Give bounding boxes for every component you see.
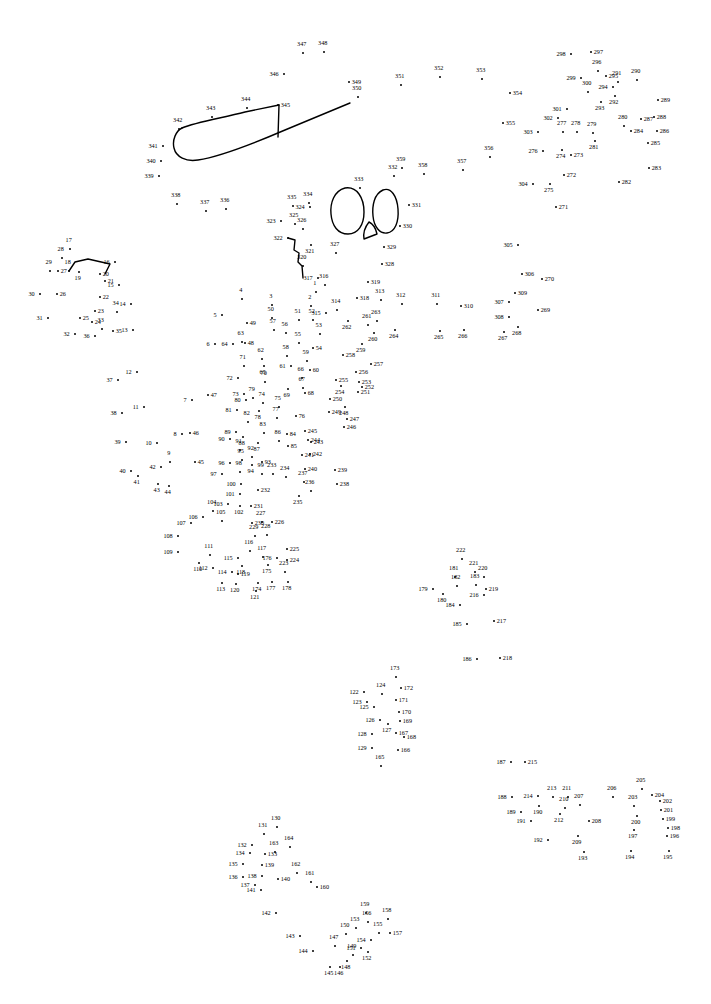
dot-label: 48 <box>248 340 254 346</box>
dot-label: 96 <box>219 460 225 466</box>
dot-label: 132 <box>237 842 246 848</box>
dot-marker <box>298 319 301 322</box>
dot-label: 320 <box>297 254 306 260</box>
dot-label: 109 <box>163 549 172 555</box>
dot-label: 95 <box>238 448 244 454</box>
dot-marker <box>367 281 370 284</box>
dot-marker <box>567 796 570 799</box>
dots-layer: 1234567891011121314151617181920212223242… <box>0 0 711 1004</box>
dot-label: 236 <box>305 479 314 485</box>
dot-label: 120 <box>230 587 239 593</box>
dot-label: 188 <box>497 794 506 800</box>
dot-marker <box>343 426 346 429</box>
dot-label: 38 <box>111 410 117 416</box>
dot-label: 37 <box>107 377 113 383</box>
dot-label: 131 <box>258 822 267 828</box>
dot-marker <box>242 876 245 879</box>
dot-marker <box>579 804 582 807</box>
dot-label: 108 <box>163 533 172 539</box>
dot-label: 67 <box>299 376 305 382</box>
dot-marker <box>130 470 133 473</box>
dot-marker <box>630 130 633 133</box>
dot-label: 249 <box>332 409 341 415</box>
dot-label: 142 <box>261 910 270 916</box>
dot-label: 201 <box>664 807 673 813</box>
dot-label: 343 <box>206 105 215 111</box>
dot-label: 254 <box>335 389 344 395</box>
dot-marker <box>162 145 165 148</box>
dot-label: 333 <box>354 176 363 182</box>
dot-marker <box>99 273 102 276</box>
dot-label: 12 <box>126 369 132 375</box>
dot-label: 239 <box>338 467 347 473</box>
dot-marker <box>130 303 133 306</box>
dot-label: 194 <box>625 854 634 860</box>
dot-marker <box>116 311 119 314</box>
dot-label: 182 <box>451 574 460 580</box>
dot-label: 253 <box>362 379 371 385</box>
dot-marker <box>231 571 234 574</box>
dot-marker <box>241 341 244 344</box>
dot-label: 271 <box>559 204 568 210</box>
dot-marker <box>367 921 370 924</box>
dot-label: 348 <box>318 40 327 46</box>
dot-label: 51 <box>295 308 301 314</box>
dot-marker <box>225 208 228 211</box>
dot-label: 209 <box>572 839 581 845</box>
dot-label: 336 <box>220 197 229 203</box>
dot-marker <box>243 365 246 368</box>
dot-marker <box>285 476 288 479</box>
dot-label: 354 <box>513 90 522 96</box>
dot-marker <box>403 736 406 739</box>
dot-label: 227 <box>256 510 265 516</box>
dot-marker <box>499 657 502 660</box>
dot-label: 146 <box>334 970 343 976</box>
dot-label: 61 <box>280 363 286 369</box>
dot-label: 49 <box>250 320 256 326</box>
dot-label: 116 <box>244 539 253 545</box>
dot-label: 174 <box>252 586 261 592</box>
dot-marker <box>662 818 665 821</box>
dot-marker <box>524 761 527 764</box>
dot-marker <box>310 881 313 884</box>
dot-label: 212 <box>554 817 563 823</box>
dot-label: 344 <box>241 96 250 102</box>
dot-label: 334 <box>303 191 312 197</box>
dot-marker <box>251 456 254 459</box>
dot-marker <box>275 912 278 915</box>
dot-label: 32 <box>64 331 70 337</box>
dot-label: 121 <box>250 594 259 600</box>
dot-marker <box>312 319 315 322</box>
dot-marker <box>280 220 283 223</box>
dot-label: 136 <box>228 874 237 880</box>
dot-label: 299 <box>566 75 575 81</box>
dot-label: 225 <box>290 546 299 552</box>
dot-label: 359 <box>396 156 405 162</box>
dot-label: 290 <box>631 68 640 74</box>
dot-label: 31 <box>37 315 43 321</box>
dot-marker <box>242 863 245 866</box>
dot-marker <box>245 399 248 402</box>
dot-marker <box>367 324 370 327</box>
dot-label: 34 <box>113 300 119 306</box>
dot-label: 289 <box>661 97 670 103</box>
dot-label: 47 <box>211 392 217 398</box>
dot-marker <box>357 96 360 99</box>
dot-label: 5 <box>214 312 217 318</box>
dot-marker <box>214 343 217 346</box>
dot-label: 112 <box>199 565 208 571</box>
dot-label: 213 <box>547 785 556 791</box>
dot-label: 311 <box>431 292 440 298</box>
dot-label: 321 <box>305 248 314 254</box>
dot-label: 172 <box>404 685 413 691</box>
dot-label: 281 <box>589 144 598 150</box>
dot-label: 17 <box>66 237 72 243</box>
dot-marker <box>552 796 555 799</box>
dot-marker <box>264 381 267 384</box>
dot-marker <box>57 270 60 273</box>
dot-label: 139 <box>265 862 274 868</box>
dot-marker <box>277 104 280 107</box>
dot-label: 169 <box>403 718 412 724</box>
dot-label: 127 <box>382 727 391 733</box>
dot-marker <box>252 397 255 400</box>
